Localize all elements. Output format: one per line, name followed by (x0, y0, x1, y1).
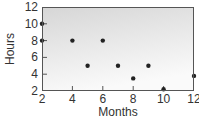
x-tick-label: 4 (69, 92, 76, 106)
data-point (85, 64, 89, 68)
y-tick-label: 2 (31, 84, 38, 98)
x-tick-label: 12 (187, 92, 199, 106)
y-axis-label: Hours (3, 33, 17, 65)
data-point (146, 64, 150, 68)
data-point (101, 38, 105, 42)
y-tick-label: 6 (31, 50, 38, 64)
y-tick-label: 12 (25, 0, 39, 14)
data-point (131, 76, 135, 80)
scatter-chart: 2468101224681012 Months Hours (0, 0, 199, 121)
x-axis-label: Months (98, 105, 137, 119)
x-tick-label: 10 (157, 92, 171, 106)
y-tick-label: 8 (31, 34, 38, 48)
x-tick-label: 2 (39, 92, 46, 106)
data-point (70, 38, 74, 42)
data-point (116, 64, 120, 68)
plot-area (42, 7, 194, 91)
y-tick-label: 10 (25, 17, 39, 31)
x-tick-label: 6 (99, 92, 106, 106)
y-tick-label: 4 (31, 67, 38, 81)
x-tick-label: 8 (130, 92, 137, 106)
